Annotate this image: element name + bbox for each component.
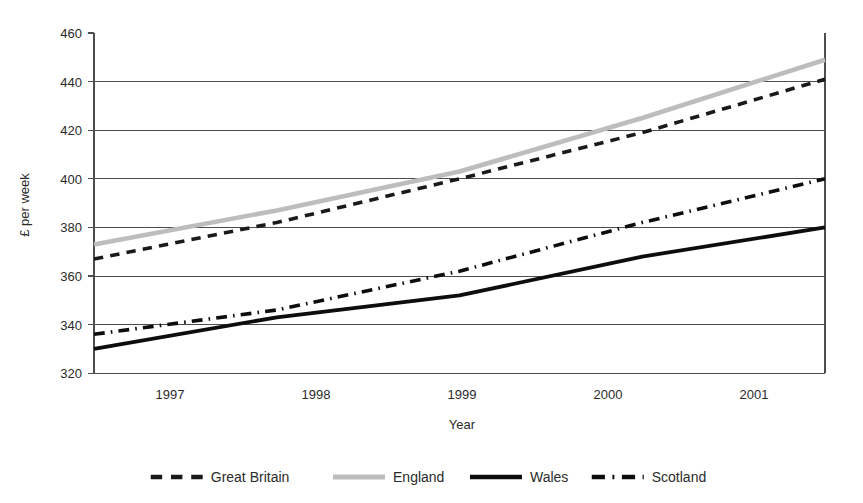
x-tick-label-2000: 2000	[594, 387, 623, 402]
y-tick-label-420: 420	[60, 123, 82, 138]
legend-label-scotland: Scotland	[652, 469, 706, 485]
y-tick-label-360: 360	[60, 269, 82, 284]
y-tick-label-460: 460	[60, 26, 82, 41]
y-tick-label-440: 440	[60, 75, 82, 90]
legend-label-great-britain: Great Britain	[211, 469, 290, 485]
x-tick-label-1998: 1998	[302, 387, 331, 402]
x-tick-label-2001: 2001	[740, 387, 769, 402]
x-axis-title: Year	[449, 417, 476, 432]
y-tick-label-400: 400	[60, 172, 82, 187]
x-tick-label-1999: 1999	[448, 387, 477, 402]
line-chart-figure: 460 440 420 400 380 360 340 320 1997 199…	[0, 0, 863, 503]
x-tick-label-1997: 1997	[156, 387, 185, 402]
y-tick-label-340: 340	[60, 318, 82, 333]
y-tick-label-320: 320	[60, 366, 82, 381]
y-axis-title: £ per week	[17, 173, 32, 237]
y-tick-label-380: 380	[60, 220, 82, 235]
legend-label-england: England	[393, 469, 444, 485]
legend-label-wales: Wales	[530, 469, 568, 485]
chart-canvas: 460 440 420 400 380 360 340 320 1997 199…	[0, 0, 863, 503]
